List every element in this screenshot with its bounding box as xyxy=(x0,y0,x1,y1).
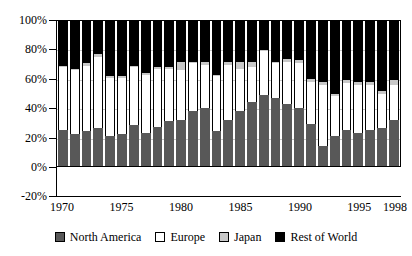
bar-segment-eur xyxy=(282,62,292,104)
bar-segment-row xyxy=(164,21,174,67)
chart-legend: North AmericaEuropeJapanRest of World xyxy=(0,226,412,248)
bar-1997 xyxy=(376,21,388,166)
x-axis-labels: 1970197519801985199019951998 xyxy=(0,200,412,216)
x-axis-tick-label: 1975 xyxy=(109,200,133,214)
bar-1971 xyxy=(69,21,81,166)
bar-segment-row xyxy=(306,21,316,79)
bar-1974 xyxy=(104,21,116,166)
bar-segment-eur xyxy=(129,67,139,125)
legend-item-row[interactable]: Rest of World xyxy=(275,231,357,243)
y-axis-labels: -20%0%20%40%60%80%100% xyxy=(0,0,47,256)
x-axis-tick-label: 1980 xyxy=(169,200,193,214)
bar-segment-row xyxy=(153,21,163,67)
bar-segment-nam xyxy=(58,130,68,166)
bar-segment-eur xyxy=(389,85,399,120)
bar-segment-eur xyxy=(200,65,210,109)
bar-segment-eur xyxy=(353,85,363,133)
bar-segment-row xyxy=(318,21,328,82)
bar-segment-eur xyxy=(188,63,198,111)
bar-segment-nam xyxy=(259,95,269,166)
x-axis-tick-label: 1985 xyxy=(228,200,252,214)
bar-segment-row xyxy=(117,21,127,76)
y-axis-tick xyxy=(49,196,56,197)
bar-segment-eur xyxy=(271,63,281,98)
y-axis-tick xyxy=(49,79,56,80)
bar-segment-row xyxy=(282,21,292,59)
bar-segment-row xyxy=(223,21,233,62)
y-axis-tick xyxy=(49,167,56,168)
bar-1991 xyxy=(305,21,317,166)
bar-1992 xyxy=(317,21,329,166)
bar-segment-row xyxy=(105,21,115,76)
bar-segment-row xyxy=(294,21,304,60)
bar-1994 xyxy=(341,21,353,166)
bar-segment-nam xyxy=(271,98,281,166)
bar-1979 xyxy=(163,21,175,166)
legend-item-eur[interactable]: Europe xyxy=(155,231,205,243)
bar-segment-nam xyxy=(247,102,257,166)
bar-segment-nam xyxy=(70,134,80,166)
bar-segment-eur xyxy=(223,65,233,120)
bar-segment-nam xyxy=(176,120,186,166)
legend-label: Europe xyxy=(170,231,205,243)
bar-1989 xyxy=(281,21,293,166)
legend-swatch-icon xyxy=(55,232,65,242)
legend-swatch-icon xyxy=(155,232,165,242)
bar-1995 xyxy=(352,21,364,166)
bar-segment-eur xyxy=(247,67,257,102)
bar-segment-nam xyxy=(294,108,304,166)
bar-segment-nam xyxy=(353,133,363,166)
bar-segment-eur xyxy=(365,85,375,130)
bar-segment-nam xyxy=(141,133,151,166)
bar-segment-nam xyxy=(129,125,139,166)
bar-1982 xyxy=(199,21,211,166)
bar-segment-eur xyxy=(141,75,151,133)
bar-segment-eur xyxy=(235,69,245,111)
x-axis-tick-label: 1970 xyxy=(50,200,74,214)
bar-segment-row xyxy=(330,21,340,94)
bar-segment-nam xyxy=(82,131,92,166)
bar-segment-eur xyxy=(117,78,127,135)
legend-item-jpn[interactable]: Japan xyxy=(219,231,261,243)
bar-segment-row xyxy=(93,21,103,54)
legend-swatch-icon xyxy=(275,232,285,242)
bar-segment-nam xyxy=(306,124,316,166)
bar-segment-eur xyxy=(164,69,174,121)
y-axis-tick-label: 60% xyxy=(1,73,47,85)
bar-segment-eur xyxy=(153,69,163,127)
x-axis-line xyxy=(56,196,401,197)
bar-segment-eur xyxy=(82,66,92,131)
legend-label: North America xyxy=(70,231,142,243)
bar-1975 xyxy=(116,21,128,166)
bar-series-container xyxy=(57,21,400,166)
bar-segment-nam xyxy=(153,127,163,166)
bar-segment-row xyxy=(129,21,139,66)
plot-area xyxy=(56,20,401,167)
bar-1977 xyxy=(140,21,152,166)
bar-segment-nam xyxy=(282,104,292,166)
bar-segment-nam xyxy=(200,108,210,166)
bar-segment-row xyxy=(353,21,363,82)
bar-segment-nam xyxy=(223,120,233,166)
bar-1993 xyxy=(329,21,341,166)
bar-segment-row xyxy=(389,21,399,80)
bar-segment-eur xyxy=(259,51,269,95)
bar-segment-eur xyxy=(212,76,222,131)
bar-segment-row xyxy=(70,21,80,69)
bar-1983 xyxy=(211,21,223,166)
bar-segment-nam xyxy=(212,131,222,166)
y-axis-tick-label: 80% xyxy=(1,43,47,55)
bar-segment-row xyxy=(235,21,245,62)
bar-segment-row xyxy=(247,21,257,62)
bar-1985 xyxy=(234,21,246,166)
legend-label: Rest of World xyxy=(290,231,357,243)
bar-segment-row xyxy=(200,21,210,62)
legend-item-nam[interactable]: North America xyxy=(55,231,142,243)
bar-segment-eur xyxy=(377,94,387,129)
y-axis-tick-label: 0% xyxy=(1,161,47,173)
stacked-bar-chart: -20%0%20%40%60%80%100% 19701975198019851… xyxy=(0,0,412,256)
bar-segment-nam xyxy=(105,136,115,166)
bar-segment-row xyxy=(271,21,281,62)
bar-segment-eur xyxy=(318,85,328,146)
bar-1990 xyxy=(293,21,305,166)
